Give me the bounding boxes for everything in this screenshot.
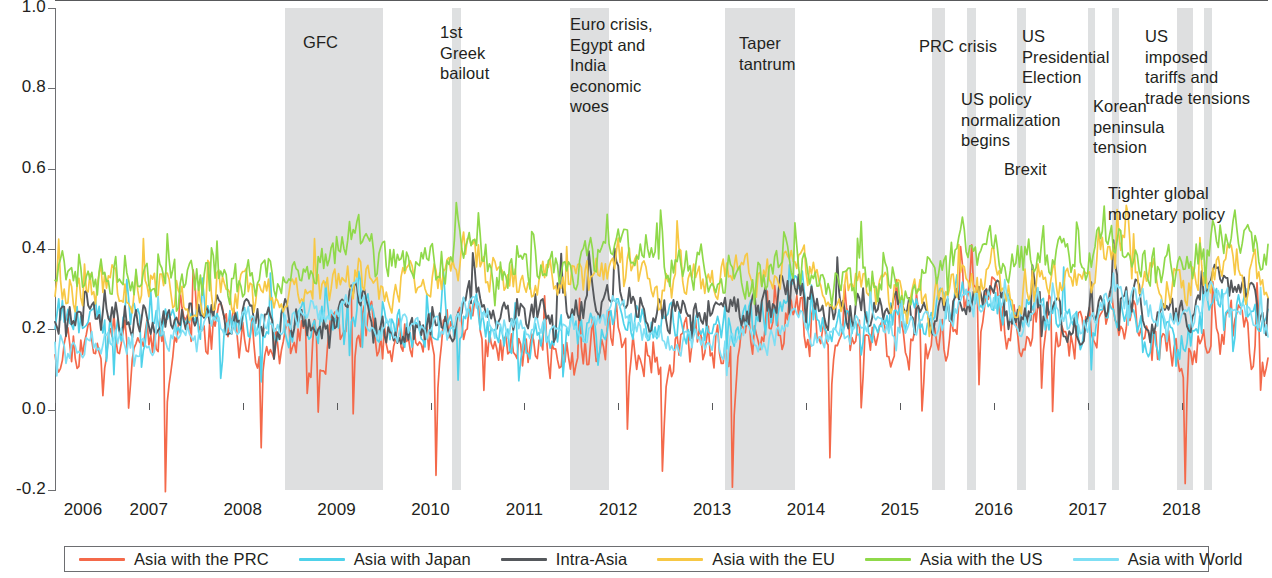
legend-item[interactable]: Asia with the US [865, 550, 1043, 569]
annotation-tighter-global: Tighter global monetary policy [1108, 183, 1225, 224]
legend-swatch-icon [501, 558, 547, 561]
annotation-brexit: Brexit [1004, 159, 1047, 180]
legend-item[interactable]: Asia with the EU [657, 550, 835, 569]
legend-swatch-icon [1073, 558, 1119, 561]
annotation-taper: Taper tantrum [739, 33, 796, 74]
legend-swatch-icon [657, 558, 703, 561]
annotation-us-policy: US policy normalization begins [961, 89, 1060, 151]
legend-label: Asia with World [1128, 550, 1243, 569]
legend-item[interactable]: Asia with World [1073, 550, 1243, 569]
chart-legend: Asia with the PRCAsia with JapanIntra-As… [64, 546, 1209, 572]
legend-label: Intra-Asia [556, 550, 628, 569]
annotation-prc-crisis: PRC crisis [919, 36, 997, 57]
annotation-1st: 1st Greek bailout [440, 22, 489, 84]
legend-item[interactable]: Asia with the PRC [79, 550, 269, 569]
annotation-euro-crisis: Euro crisis, Egypt and India economic wo… [570, 14, 653, 117]
legend-swatch-icon [299, 558, 345, 561]
annotation-us: US Presidential Election [1022, 26, 1109, 88]
legend-label: Asia with Japan [354, 550, 471, 569]
legend-swatch-icon [865, 558, 911, 561]
annotation-gfc: GFC [303, 32, 338, 53]
legend-item[interactable]: Asia with Japan [299, 550, 471, 569]
legend-label: Asia with the US [920, 550, 1043, 569]
annotation-us: US imposed tariffs and trade tensions [1145, 26, 1250, 108]
legend-label: Asia with the EU [712, 550, 835, 569]
legend-item[interactable]: Intra-Asia [501, 550, 628, 569]
legend-swatch-icon [79, 558, 125, 561]
chart-figure: 1.00.80.60.40.20.0-0.2 20062007200820092… [0, 0, 1272, 578]
legend-label: Asia with the PRC [134, 550, 269, 569]
